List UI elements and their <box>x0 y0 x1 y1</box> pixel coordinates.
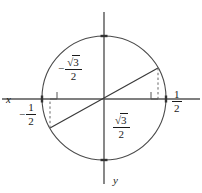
right-angle-mark-left <box>50 92 57 99</box>
minus-sign-upper-left: − <box>58 63 65 74</box>
radicand-upper-left: 3 <box>72 55 80 69</box>
x-axis-label: x <box>6 94 11 105</box>
fraction-numerator-lower-right: √3 <box>113 113 130 128</box>
minus-sign-left: − <box>19 109 26 120</box>
fraction-denominator-upper-left: 2 <box>65 70 82 83</box>
fraction-lower-right: √3 2 <box>113 113 130 140</box>
radical-lower-right: √3 <box>115 113 128 127</box>
y-axis-label: y <box>113 175 118 186</box>
fraction-denominator-right: 2 <box>172 102 182 115</box>
right-angle-mark-right <box>151 92 158 99</box>
fraction-denominator-left: 2 <box>26 115 36 128</box>
radicand-lower-right: 3 <box>120 113 128 127</box>
fraction-numerator-left: 1 <box>26 101 36 115</box>
fraction-numerator-upper-left: √3 <box>65 55 82 70</box>
label-sqrt3-over-2: √3 2 <box>113 113 130 140</box>
fraction-numerator-right: 1 <box>172 88 182 102</box>
label-neg-sqrt3-over-2: − √3 2 <box>58 55 82 82</box>
label-neg-one-half: − 1 2 <box>19 101 36 127</box>
fraction-left: 1 2 <box>26 101 36 127</box>
fraction-denominator-lower-right: 2 <box>113 128 130 141</box>
unit-circle-figure: x y − √3 2 √3 2 1 2 − 1 2 <box>0 0 202 193</box>
radical-upper-left: √3 <box>67 55 80 69</box>
fraction-upper-left: √3 2 <box>65 55 82 82</box>
label-one-half: 1 2 <box>172 88 182 114</box>
fraction-right: 1 2 <box>172 88 182 114</box>
